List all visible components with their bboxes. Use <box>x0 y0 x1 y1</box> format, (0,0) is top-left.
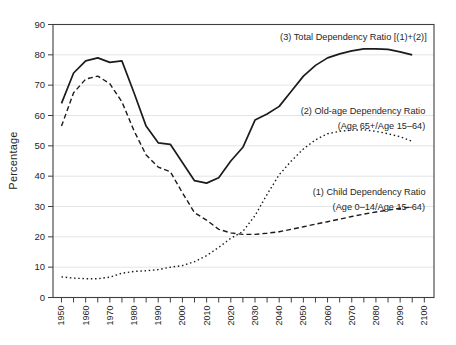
x-tick-label: 1950 <box>56 306 66 326</box>
y-tick-label: 70 <box>34 79 45 90</box>
y-tick-label: 60 <box>34 110 45 121</box>
annotation-text: (Age 65+/Age 15–64) <box>338 121 426 131</box>
y-tick-label: 10 <box>34 261 45 272</box>
x-tick-label: 1980 <box>129 306 139 326</box>
x-tick-label: 2070 <box>347 306 357 326</box>
y-tick-label: 40 <box>34 170 45 181</box>
x-tick-label: 1990 <box>153 306 163 326</box>
y-tick-label: 30 <box>34 201 45 212</box>
x-tick-label: 2060 <box>323 306 333 326</box>
x-tick-label: 2080 <box>371 306 381 326</box>
x-tick-label: 2050 <box>298 306 308 326</box>
x-tick-label: 1960 <box>81 306 91 326</box>
annotation-text: (Age 0–14/Age 15–64) <box>333 202 425 212</box>
x-tick-label: 2020 <box>226 306 236 326</box>
y-tick-label: 90 <box>34 19 45 30</box>
x-tick-label: 2100 <box>419 306 429 326</box>
y-tick-label: 50 <box>34 140 45 151</box>
annotation-text: (3) Total Dependency Ratio [(1)+(2)] <box>280 32 427 42</box>
x-tick-label: 2040 <box>274 306 284 326</box>
y-tick-label: 0 <box>40 292 45 303</box>
plot-frame <box>53 25 434 298</box>
x-tick-label: 2000 <box>177 306 187 326</box>
x-tick-label: 2030 <box>250 306 260 326</box>
dependency-ratio-chart: 0102030405060708090195019601970198019902… <box>0 0 456 345</box>
dependency-ratio-figure: Percentage 01020304050607080901950196019… <box>0 0 456 345</box>
annotation-text: (1) Child Dependency Ratio <box>313 187 426 197</box>
y-tick-label: 20 <box>34 231 45 242</box>
annotation-text: (2) Old-age Dependency Ratio <box>301 106 426 116</box>
x-tick-label: 2090 <box>395 306 405 326</box>
x-tick-label: 2010 <box>202 306 212 326</box>
x-tick-label: 1970 <box>105 306 115 326</box>
y-axis-title: Percentage <box>7 100 22 222</box>
y-tick-label: 80 <box>34 49 45 60</box>
